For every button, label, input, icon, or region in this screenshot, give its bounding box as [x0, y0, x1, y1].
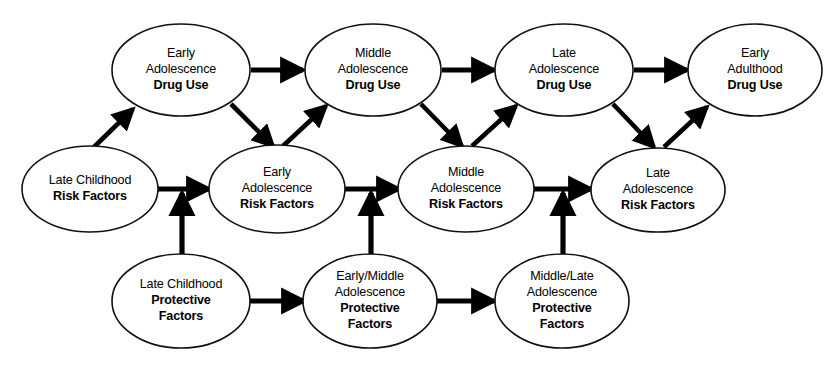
arrow-late-adolescence-risk-to-early-adulthood-drug-use: [664, 107, 707, 147]
flow-diagram: EarlyAdolescenceDrug UseMiddleAdolescenc…: [0, 0, 838, 374]
middle-adolescence-drug-use-line-2: Drug Use: [346, 79, 401, 93]
late-childhood-risk-factors-line-1: Risk Factors: [53, 189, 127, 203]
arrow-early-adolescence-risk-to-middle-adolescence-drug-use: [283, 106, 326, 146]
early-adolescence-drug-use-line-1: Adolescence: [146, 62, 217, 76]
arrow-middle-adolescence-risk-to-late-adolescence-drug-use: [472, 106, 516, 146]
arrow-late-childhood-risk-to-early-adolescence-drug-use: [94, 109, 133, 147]
diagram-canvas: EarlyAdolescenceDrug UseMiddleAdolescenc…: [0, 0, 838, 374]
late-childhood-risk-factors-line-0: Late Childhood: [49, 173, 132, 187]
early-middle-adolescence-protective-factors-line-2: Protective: [340, 301, 400, 315]
early-middle-adolescence-protective-factors-line-1: Adolescence: [335, 285, 406, 299]
early-adolescence-drug-use-line-2: Drug Use: [154, 79, 209, 93]
middle-adolescence-risk-factors-line-0: Middle: [448, 165, 484, 179]
nodes-layer: EarlyAdolescenceDrug UseMiddleAdolescenc…: [22, 24, 822, 348]
early-adolescence-risk-factors-line-1: Adolescence: [242, 181, 313, 195]
middle-late-adolescence-protective-factors-line-3: Factors: [540, 318, 585, 332]
late-childhood-protective-factors-line-0: Late Childhood: [140, 277, 223, 291]
early-adolescence-drug-use-line-0: Early: [167, 46, 196, 60]
middle-adolescence-risk-factors-line-1: Adolescence: [431, 181, 502, 195]
late-adolescence-risk-factors-line-0: Late: [646, 166, 670, 180]
early-adolescence-risk-factors-line-0: Early: [263, 165, 292, 179]
late-adolescence-drug-use-line-2: Drug Use: [537, 79, 592, 93]
node-early-adolescence-drug-use[interactable]: EarlyAdolescenceDrug Use: [112, 24, 250, 116]
node-early-middle-adolescence-protective-factors[interactable]: Early/MiddleAdolescenceProtectiveFactors: [303, 254, 437, 348]
middle-late-adolescence-protective-factors-line-1: Adolescence: [527, 285, 598, 299]
middle-late-adolescence-protective-factors-line-0: Middle/Late: [530, 269, 594, 283]
node-middle-late-adolescence-protective-factors[interactable]: Middle/LateAdolescenceProtectiveFactors: [495, 254, 629, 348]
node-middle-adolescence-risk-factors[interactable]: MiddleAdolescenceRisk Factors: [398, 146, 534, 232]
arrow-middle-adolescence-drug-use-to-middle-adolescence-risk: [421, 104, 462, 146]
node-early-adulthood-drug-use[interactable]: EarlyAdulthoodDrug Use: [688, 24, 822, 116]
late-childhood-protective-factors-line-1: Protective: [151, 293, 211, 307]
early-adulthood-drug-use-line-0: Early: [741, 46, 770, 60]
node-early-adolescence-risk-factors[interactable]: EarlyAdolescenceRisk Factors: [209, 145, 345, 233]
early-middle-adolescence-protective-factors-line-3: Factors: [348, 318, 393, 332]
node-late-adolescence-drug-use[interactable]: LateAdolescenceDrug Use: [495, 24, 633, 116]
late-adolescence-risk-factors-line-2: Risk Factors: [621, 199, 695, 213]
middle-adolescence-drug-use-line-0: Middle: [355, 46, 391, 60]
late-adolescence-drug-use-line-1: Adolescence: [529, 62, 600, 76]
early-adulthood-drug-use-line-2: Drug Use: [728, 79, 783, 93]
middle-adolescence-risk-factors-line-2: Risk Factors: [429, 198, 503, 212]
node-late-childhood-risk-factors[interactable]: Late ChildhoodRisk Factors: [22, 146, 158, 232]
late-adolescence-drug-use-line-0: Late: [552, 46, 576, 60]
node-middle-adolescence-drug-use[interactable]: MiddleAdolescenceDrug Use: [305, 24, 441, 116]
early-adolescence-risk-factors-line-2: Risk Factors: [240, 198, 314, 212]
early-adulthood-drug-use-line-1: Adulthood: [727, 62, 783, 76]
middle-adolescence-drug-use-line-1: Adolescence: [338, 62, 409, 76]
node-late-childhood-protective-factors[interactable]: Late ChildhoodProtectiveFactors: [112, 254, 250, 348]
arrow-early-adolescence-drug-use-to-early-adolescence-risk: [231, 104, 273, 146]
middle-late-adolescence-protective-factors-line-2: Protective: [532, 301, 592, 315]
node-late-adolescence-risk-factors[interactable]: LateAdolescenceRisk Factors: [591, 148, 725, 232]
late-adolescence-risk-factors-line-1: Adolescence: [623, 182, 694, 196]
early-middle-adolescence-protective-factors-line-0: Early/Middle: [336, 269, 404, 283]
late-childhood-protective-factors-line-2: Factors: [159, 310, 204, 324]
arrow-late-adolescence-drug-use-to-late-adolescence-risk: [613, 104, 654, 147]
